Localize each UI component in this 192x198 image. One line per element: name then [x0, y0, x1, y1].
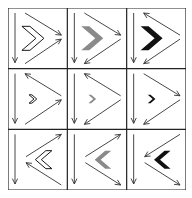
vertical-arrow-icon	[131, 134, 136, 184]
vertical-arrow-icon	[12, 134, 17, 184]
lower-diagonal-arrow-icon	[144, 100, 180, 125]
cell-r3c3	[131, 134, 180, 185]
cell-r2c1	[12, 74, 61, 125]
cell-r2c3	[131, 74, 180, 125]
chevron-right-icon	[88, 95, 96, 103]
vertical-arrow-icon	[131, 74, 136, 124]
chevron-right-icon	[29, 95, 37, 103]
cell-r1c3	[131, 13, 180, 64]
vertical-arrow-icon	[72, 13, 77, 63]
vertical-arrow-icon	[12, 13, 17, 63]
chevron-right-icon	[148, 95, 156, 103]
lower-diagonal-arrow-icon	[84, 100, 120, 125]
puzzle-grid	[8, 8, 186, 190]
chevron-right-icon	[81, 26, 103, 50]
chevron-right-icon	[141, 26, 163, 50]
vertical-arrow-icon	[72, 74, 77, 124]
upper-diagonal-arrow-icon	[84, 74, 120, 96]
vertical-arrow-icon	[131, 13, 136, 63]
cell-r1c1	[12, 13, 61, 64]
vertical-arrow-icon	[72, 134, 77, 184]
cell-r3c2	[72, 134, 121, 185]
chevron-right-icon	[22, 26, 44, 50]
chevron-left-icon	[95, 151, 112, 169]
lower-diagonal-arrow-icon	[84, 39, 120, 64]
chevron-left-icon	[154, 151, 171, 169]
cell-r2c2	[72, 74, 121, 125]
upper-diagonal-arrow-icon	[144, 74, 180, 96]
matrix-diagram	[8, 8, 186, 190]
vertical-arrow-icon	[12, 74, 17, 124]
chevron-left-icon	[35, 151, 52, 169]
lower-diagonal-arrow-icon	[144, 39, 180, 64]
upper-diagonal-arrow-icon	[25, 74, 61, 96]
cell-r1c2	[72, 13, 121, 64]
cell-r3c1	[12, 134, 61, 185]
